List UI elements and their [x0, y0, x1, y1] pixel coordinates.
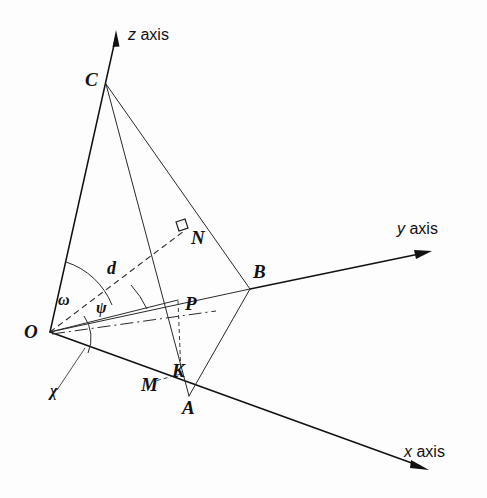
x-axis-label-italic: x — [404, 443, 412, 460]
y-axis-line — [250, 253, 424, 289]
point-label-P: P — [185, 294, 197, 313]
point-label-C: C — [85, 70, 98, 89]
right-angle-marker-N — [176, 219, 188, 231]
solid-edges — [50, 84, 250, 396]
chi-leader-line — [57, 348, 85, 390]
y-axis-label-italic: y — [397, 220, 405, 237]
y-axis — [250, 250, 432, 289]
segment-d-O-N — [50, 231, 184, 332]
x-axis-arrowhead — [410, 460, 429, 470]
angle-label-chi: χ — [50, 383, 57, 399]
segment-label-d: d — [107, 259, 116, 277]
edge-C-A — [106, 84, 189, 396]
z-axis-arrowhead — [113, 30, 120, 47]
z-axis-label-rest: axis — [136, 26, 169, 43]
dashed-d-line — [50, 231, 184, 332]
point-label-N: N — [191, 228, 205, 247]
angle-label-psi: ψ — [96, 300, 107, 316]
edge-O-B — [50, 289, 250, 332]
point-label-O: O — [24, 322, 38, 341]
angle-arc-psi — [131, 285, 147, 309]
geometry-diagram: z axis y axis x axis O C B A M K N P ω ψ… — [0, 0, 487, 498]
x-axis-line — [50, 332, 420, 466]
x-axis-label-rest: axis — [412, 443, 445, 460]
point-label-B: B — [253, 262, 266, 281]
x-axis — [50, 332, 429, 470]
y-axis-label-rest: axis — [405, 220, 438, 237]
y-axis-arrowhead — [414, 250, 432, 259]
point-label-A: A — [182, 398, 195, 417]
x-axis-label: x axis — [404, 444, 445, 460]
angle-label-omega: ω — [58, 292, 70, 308]
z-axis-line — [50, 36, 116, 332]
right-angle-square-icon — [176, 219, 188, 231]
point-label-M: M — [141, 375, 158, 394]
edge-B-A — [189, 289, 250, 396]
edge-C-B — [106, 84, 250, 289]
z-axis-label: z axis — [128, 27, 169, 43]
z-axis-label-italic: z — [128, 26, 136, 43]
diagram-canvas — [0, 0, 487, 498]
point-label-K: K — [172, 361, 185, 380]
arc-psi — [131, 285, 147, 309]
y-axis-label: y axis — [397, 221, 438, 237]
